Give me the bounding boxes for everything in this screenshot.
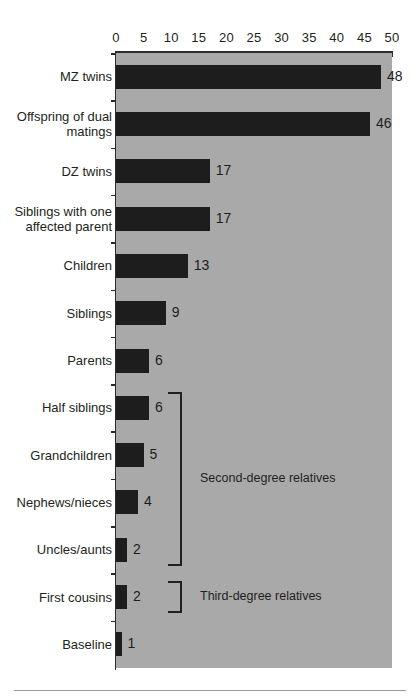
bar-value-label: 5	[150, 446, 158, 462]
y-tick-mark	[111, 337, 116, 339]
x-tick-label: 40	[329, 30, 344, 45]
x-tick-label: 10	[164, 30, 179, 45]
x-tick-label: 15	[191, 30, 206, 45]
bar-value-label: 2	[133, 541, 141, 557]
bar	[116, 254, 188, 278]
category-label: Offspring of dual matings	[0, 109, 112, 139]
bar-chart-figure: 05101520253035404550 MZ twinsOffspring o…	[0, 0, 420, 700]
bar-value-label: 46	[376, 115, 392, 131]
bar	[116, 538, 127, 562]
y-tick-mark	[111, 242, 116, 244]
x-tick-label: 45	[357, 30, 372, 45]
bar	[116, 632, 122, 656]
category-label: MZ twins	[0, 69, 112, 84]
y-tick-mark	[111, 148, 116, 150]
category-label: Grandchildren	[0, 448, 112, 463]
group-bracket-label: Second-degree relatives	[200, 471, 336, 485]
bar-value-label: 6	[155, 399, 163, 415]
category-label: Children	[0, 258, 112, 273]
x-tick-label: 25	[247, 30, 262, 45]
bar	[116, 112, 370, 136]
bar	[116, 159, 210, 183]
x-tick-mark	[392, 51, 393, 57]
y-tick-mark	[111, 195, 116, 197]
x-tick-label: 0	[112, 30, 119, 45]
bar-value-label: 17	[216, 210, 232, 226]
group-bracket	[168, 581, 182, 613]
bar-value-label: 9	[172, 304, 180, 320]
y-tick-mark	[111, 526, 116, 528]
category-label: Half siblings	[0, 400, 112, 415]
category-label: DZ twins	[0, 164, 112, 179]
y-tick-mark	[111, 621, 116, 623]
x-tick-label: 30	[274, 30, 289, 45]
x-tick-label: 20	[219, 30, 234, 45]
bar	[116, 585, 127, 609]
bar	[116, 490, 138, 514]
category-label: Baseline	[0, 637, 112, 652]
x-tick-label: 50	[385, 30, 400, 45]
category-label: Parents	[0, 353, 112, 368]
x-tick-label: 5	[140, 30, 147, 45]
category-label: Siblings	[0, 306, 112, 321]
group-bracket-label: Third-degree relatives	[200, 589, 322, 603]
bar-value-label: 2	[133, 588, 141, 604]
bar	[116, 396, 149, 420]
footer-divider	[14, 690, 406, 691]
y-tick-mark	[111, 53, 116, 55]
bar-value-label: 17	[216, 162, 232, 178]
bar	[116, 207, 210, 231]
x-tick-label: 35	[302, 30, 317, 45]
category-label: First cousins	[0, 590, 112, 605]
category-label: Siblings with one affected parent	[0, 204, 112, 234]
y-tick-mark	[111, 384, 116, 386]
bar-value-label: 13	[194, 257, 210, 273]
category-label: Uncles/aunts	[0, 542, 112, 557]
category-label: Nephews/nieces	[0, 495, 112, 510]
y-tick-mark	[111, 290, 116, 292]
y-tick-mark	[111, 431, 116, 433]
category-label-column: MZ twinsOffspring of dual matingsDZ twin…	[0, 53, 112, 668]
bar-value-label: 48	[387, 68, 403, 84]
y-tick-mark	[111, 479, 116, 481]
bar	[116, 65, 381, 89]
bar	[116, 443, 144, 467]
bar-value-label: 1	[128, 635, 136, 651]
bar-value-label: 4	[144, 493, 152, 509]
group-bracket	[168, 392, 182, 566]
plot-area: 484617171396654221Second-degree relative…	[116, 53, 392, 668]
bar	[116, 301, 166, 325]
y-tick-mark	[111, 100, 116, 102]
y-tick-mark	[111, 573, 116, 575]
bar-value-label: 6	[155, 352, 163, 368]
bar	[116, 349, 149, 373]
